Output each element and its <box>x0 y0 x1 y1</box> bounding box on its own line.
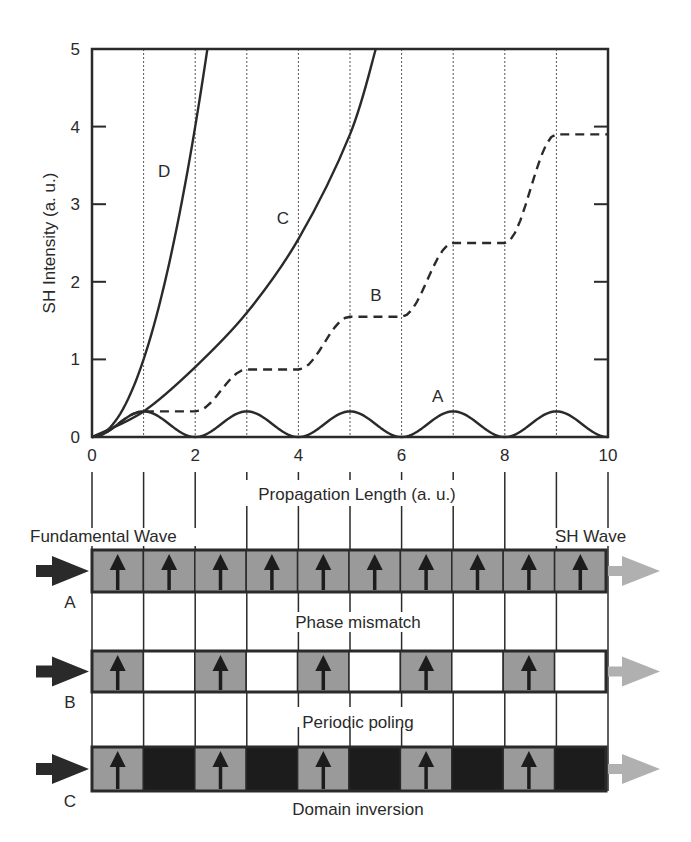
row-label-a: A <box>64 593 76 612</box>
x-tick-label: 10 <box>599 446 618 465</box>
domain-empty <box>143 651 194 692</box>
input-arrow-icon <box>36 657 89 687</box>
domain-empty <box>555 651 606 692</box>
x-tick-label: 8 <box>500 446 509 465</box>
x-tick-label: 0 <box>87 446 96 465</box>
x-tick-label: 6 <box>397 446 406 465</box>
waveguide-diagram: APhase mismatchBPeriodic polingCDomain i… <box>36 472 660 819</box>
fundamental-wave-label: Fundamental Wave <box>30 527 177 546</box>
domain-inverted <box>452 747 503 791</box>
x-axis-label: Propagation Length (a. u.) <box>258 485 456 504</box>
output-arrow-icon <box>608 657 660 687</box>
domain-inverted <box>555 747 606 791</box>
input-arrow-icon <box>36 754 89 784</box>
output-arrow-icon <box>608 556 660 586</box>
y-tick-label: 4 <box>71 118 80 137</box>
y-tick-label: 3 <box>71 195 80 214</box>
curve-label-c: C <box>277 209 289 228</box>
curve-label-b: B <box>370 286 381 305</box>
curve-c <box>92 49 376 437</box>
grid-lines <box>144 49 557 437</box>
y-axis-label: SH Intensity (a. u.) <box>40 173 59 314</box>
row-caption: Periodic poling <box>302 713 414 732</box>
x-tick-label: 2 <box>190 446 199 465</box>
output-arrow-icon <box>608 754 660 784</box>
row-label-c: C <box>64 792 76 811</box>
y-tick-label: 0 <box>71 428 80 447</box>
y-tick-label: 1 <box>71 350 80 369</box>
domain-inverted <box>246 747 297 791</box>
domain-empty <box>452 651 503 692</box>
domain-inverted <box>349 747 400 791</box>
row-caption: Domain inversion <box>292 800 423 819</box>
domain-empty <box>246 651 297 692</box>
input-arrow-icon <box>36 556 89 586</box>
x-tick-label: 4 <box>294 446 303 465</box>
y-tick-label: 2 <box>71 273 80 292</box>
sh-intensity-figure: 0123450246810 ABCD Propagation Length (a… <box>0 0 691 842</box>
curve-d <box>92 49 207 437</box>
row-caption: Phase mismatch <box>295 613 421 632</box>
curve-label-d: D <box>158 162 170 181</box>
sh-wave-label: SH Wave <box>555 527 626 546</box>
row-label-b: B <box>64 693 75 712</box>
curve-label-a: A <box>432 387 444 406</box>
y-tick-label: 5 <box>71 40 80 59</box>
tick-labels: 0123450246810 <box>71 40 618 465</box>
domain-inverted <box>143 747 194 791</box>
domain-empty <box>349 651 400 692</box>
